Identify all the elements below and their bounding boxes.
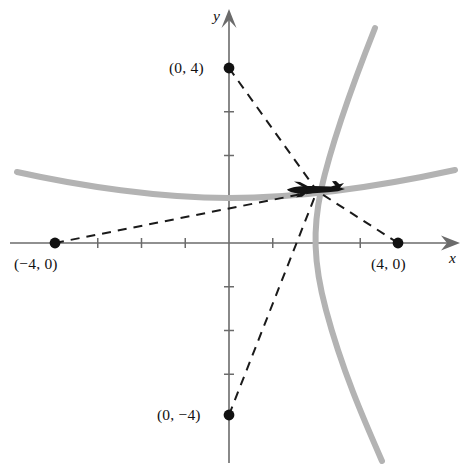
axes-group: [10, 9, 460, 463]
dashed-line-from-point-right: [317, 191, 398, 243]
airplane-tail-fin: [332, 181, 341, 186]
x-axis-label: x: [449, 250, 456, 266]
hyperbola-branch-curve: [316, 28, 382, 461]
point-left-label: (−4, 0): [14, 256, 58, 272]
point-left-dot: [50, 238, 61, 249]
point-right-dot: [393, 238, 404, 249]
dashed-line-from-point-top: [229, 68, 317, 191]
point-top-label: (0, 4): [169, 60, 204, 76]
dashed-lines-group: [55, 68, 398, 415]
ellipse-arc-curve: [17, 170, 455, 198]
point-bottom-label: (0, −4): [157, 407, 201, 423]
dashed-line-from-point-bottom: [229, 191, 317, 415]
airplane-engine: [293, 187, 307, 194]
figure-canvas: (0, 4) (−4, 0) (4, 0) (0, −4) y x: [0, 0, 472, 471]
coordinate-plane-svg: [0, 0, 472, 471]
y-axis-label: y: [213, 8, 220, 24]
point-top-dot: [224, 63, 235, 74]
point-right-label: (4, 0): [371, 256, 406, 272]
point-bottom-dot: [224, 410, 235, 421]
labeled-points-group: [50, 63, 404, 421]
